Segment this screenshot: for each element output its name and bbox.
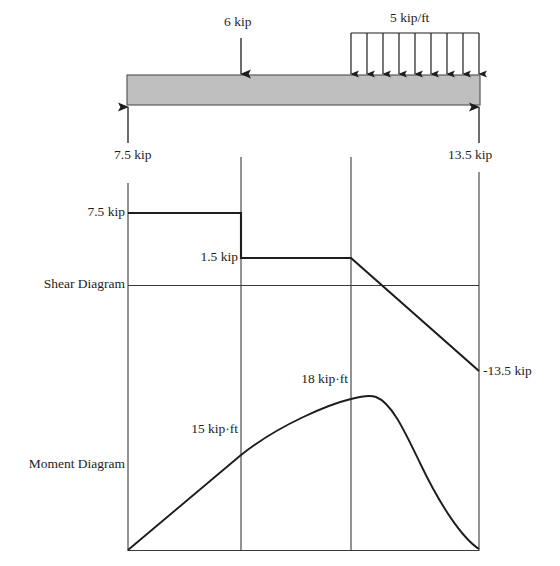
shear-diagram-title: Shear Diagram bbox=[8, 276, 125, 292]
shear-level-2-label: 1.5 kip bbox=[158, 249, 238, 265]
moment-curve bbox=[128, 396, 479, 550]
moment-value-2-label: 18 kip·ft bbox=[263, 371, 348, 387]
reaction-right-label: 13.5 kip bbox=[448, 147, 492, 163]
beam-body bbox=[127, 75, 480, 105]
figure-canvas: 6 kip 5 kip/ft 7.5 kip 13.5 kip 7.5 kip … bbox=[0, 0, 560, 566]
distributed-load-label: 5 kip/ft bbox=[390, 10, 429, 26]
moment-diagram-title: Moment Diagram bbox=[8, 456, 125, 472]
shear-curve bbox=[128, 213, 479, 371]
point-load-label: 6 kip bbox=[224, 14, 251, 30]
distributed-load-group bbox=[351, 33, 479, 74]
moment-value-1-label: 15 kip·ft bbox=[155, 421, 238, 437]
shear-level-1-label: 7.5 kip bbox=[45, 204, 125, 220]
reaction-left-label: 7.5 kip bbox=[114, 147, 152, 163]
shear-min-label: -13.5 kip bbox=[483, 363, 532, 379]
